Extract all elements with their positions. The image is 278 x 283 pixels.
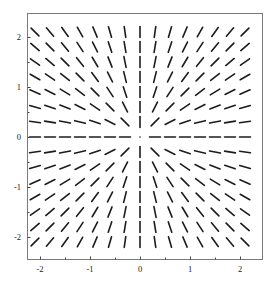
figure-background — [0, 0, 278, 283]
plot-canvas: -2-1012210-1-2 — [0, 0, 278, 283]
x-tick-label: 2 — [238, 264, 242, 274]
y-tick-label: -2 — [14, 232, 21, 242]
vector-field-segments — [30, 27, 251, 248]
y-tick-label: 1 — [17, 82, 21, 92]
y-tick-label: 0 — [17, 132, 21, 142]
x-tick-label: -1 — [86, 264, 93, 274]
x-tick-label: 0 — [138, 264, 142, 274]
direction-field-figure: -2-1012210-1-2 — [0, 0, 278, 283]
y-tick-label: -1 — [14, 182, 21, 192]
x-tick-label: 1 — [188, 264, 192, 274]
field-origin-dot — [139, 136, 141, 138]
y-tick-label: 2 — [17, 32, 21, 42]
x-tick-label: -2 — [36, 264, 43, 274]
